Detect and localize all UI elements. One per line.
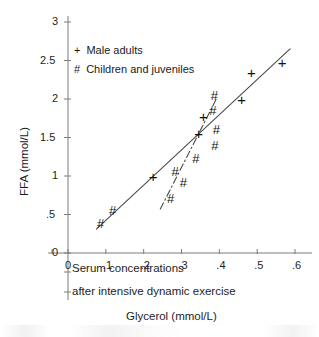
y-tick-label: .5	[46, 208, 55, 220]
x-tick-label: .5	[254, 259, 263, 271]
data-point-hash: #	[211, 140, 218, 152]
data-point-plus: +	[278, 57, 287, 69]
y-tick-label: 0	[52, 246, 58, 258]
data-point-hash: #	[97, 218, 104, 230]
caption-serum-concentrations: Serum concentrations	[72, 262, 184, 274]
y-axis-title: FFA (mmol/L)	[18, 127, 30, 196]
legend-plus-icon: +	[74, 44, 80, 56]
data-point-hash: #	[213, 124, 220, 136]
legend-item: +Male adults	[74, 44, 143, 56]
data-point-hash: #	[109, 205, 116, 217]
axes-group	[48, 16, 312, 300]
x-tick-label: 0	[65, 259, 71, 271]
data-point-plus: +	[237, 94, 246, 106]
caption-after-exercise: after intensive dynamic exercise	[72, 285, 236, 297]
scan-artifact	[0, 325, 319, 337]
data-point-hash: #	[171, 166, 178, 178]
y-tick-label: 1	[52, 169, 58, 181]
x-axis-title: Glycerol (mmol/L)	[126, 310, 217, 322]
legend-item-label: Male adults	[86, 44, 142, 56]
data-point-hash: #	[192, 153, 199, 165]
data-point-plus: +	[247, 67, 256, 79]
legend-hash-icon: #	[74, 63, 80, 75]
y-tick-label: 2.5	[40, 54, 55, 66]
legend-item-label: Children and juveniles	[86, 63, 194, 75]
data-point-hash: #	[167, 193, 174, 205]
scatter-plot-figure: FFA (mmol/L) 0.1.2.3.4.5.6 0.511.522.53 …	[0, 0, 319, 337]
data-point-hash: #	[209, 105, 216, 117]
data-point-hash: #	[211, 90, 218, 102]
y-tick-label: 2	[52, 92, 58, 104]
data-point-hash: #	[180, 177, 187, 189]
data-point-plus: +	[194, 128, 203, 140]
y-tick-label: 1.5	[40, 131, 55, 143]
data-point-plus: +	[149, 171, 158, 183]
y-tick-label: 3	[52, 15, 58, 27]
x-tick-label: .4	[216, 259, 225, 271]
legend-item: #Children and juveniles	[74, 63, 194, 75]
x-tick-label: .6	[292, 259, 301, 271]
data-point-plus: +	[199, 111, 208, 123]
